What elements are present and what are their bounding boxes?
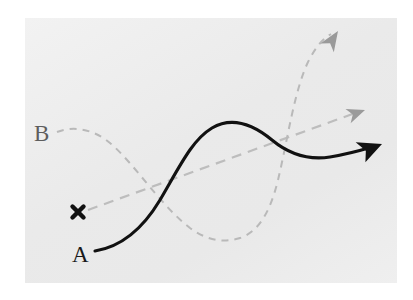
diagram-stage: A B (0, 0, 413, 300)
solid-curve-arrowhead-icon (356, 134, 386, 163)
label-b: B (34, 122, 49, 145)
label-a: A (72, 243, 89, 266)
straight-line-arrowhead-icon (346, 103, 368, 123)
solid-black-curve (95, 122, 372, 251)
dashed-gray-curve (57, 34, 331, 241)
x-marker-icon (73, 207, 84, 218)
diagram-vector-canvas (0, 0, 413, 300)
